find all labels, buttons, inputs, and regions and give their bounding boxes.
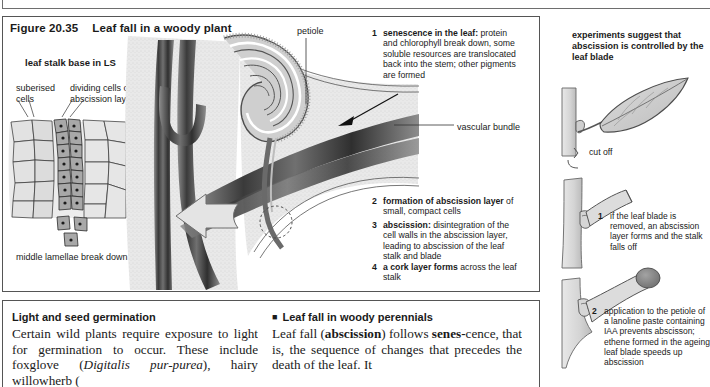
label-cut-off: cut off [589,147,613,157]
right-column-heading: ■Leaf fall in woody perennials [272,311,522,323]
experiment-note-2-number: 2 [592,306,597,316]
right-col-bold-abscission: abscission [325,326,381,341]
experiment-note-2-text: application to the petiole of a lanoline… [604,306,710,367]
previous-box-bottom-edge [2,0,710,9]
figure-note-4-bold: a cork layer forms [383,262,458,272]
right-col-bold-senescence: senes- [432,326,466,341]
experiment-a-group [562,78,688,168]
figure-note-2: 2 formation of abscission layer of small… [372,196,524,217]
experiment-note-1: 1 if the leaf blade is removed, an absci… [598,211,710,252]
body-column-left: Light and seed germination Certain wild … [12,311,258,387]
figure-note-1-number: 1 [372,28,377,38]
figure-note-4-number: 4 [372,262,377,272]
experiment-note-1-number: 1 [598,211,603,221]
left-col-species-italic: Digitalis pur- [84,357,173,372]
right-column-paragraph: Leaf fall (abscission) follows senes-cen… [272,326,522,373]
left-col-species-italic-2: purea [173,357,203,372]
figure-note-2-number: 2 [372,196,377,206]
left-column-paragraph: Certain wild plants require exposure to … [12,326,258,387]
figure-note-1-bold: senescence in the leaf: [383,28,478,38]
note1-pointer-arrow [336,92,402,132]
label-middle-lamellae: middle lamellae break down [16,252,128,262]
figure-note-3-number: 3 [372,220,377,230]
right-column-heading-text: Leaf fall in woody perennials [282,311,432,323]
ls-panel-heading: leaf stalk base in LS [25,57,116,68]
figure-note-4: 4 a cork layer forms across the leaf sta… [372,262,524,283]
experiments-heading: experiments suggest that abscission is c… [572,30,704,63]
vascular-bundle-leader-line [392,118,462,132]
experiment-note-2: 2 application to the petiole of a lanoli… [592,306,710,367]
label-petiole: petiole [297,26,324,36]
figure-note-1: 1 senescence in the leaf: protein and ch… [372,28,522,80]
left-column-heading: Light and seed germination [12,311,258,323]
figure-note-3-bold: abscission: [383,220,431,230]
figure-note-3: 3 abscission: disintegration of the cell… [372,220,524,262]
petiole-leader-line [294,38,334,108]
figure-note-2-bold: formation of abscission layer [383,196,504,206]
leaf-stalk-base-ls-illustration [8,100,130,250]
right-col-pre: Leaf fall ( [272,326,325,341]
body-column-right: ■Leaf fall in woody perennials Leaf fall… [272,311,522,387]
section-marker-icon: ■ [272,312,277,322]
label-vascular-bundle: vascular bundle [457,122,520,132]
right-col-mid: ) follows [381,326,432,341]
figure-number: Figure 20.35 [10,22,78,34]
experiment-note-1-text: if the leaf blade is removed, an absciss… [610,211,710,252]
